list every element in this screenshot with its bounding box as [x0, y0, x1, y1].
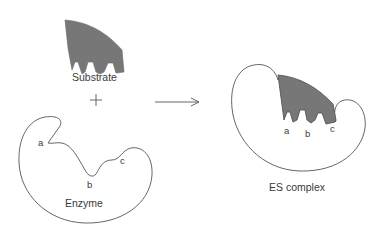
es-substrate-shape [278, 75, 336, 124]
es-site-label-c: c [330, 123, 335, 134]
site-label-b: b [87, 179, 92, 190]
es-site-label-a: a [284, 125, 289, 136]
enzyme-label: Enzyme [65, 197, 103, 209]
site-label-a: a [38, 137, 43, 148]
es-site-label-b: b [305, 128, 310, 139]
es-complex-label: ES complex [269, 181, 325, 193]
site-label-c: c [120, 155, 125, 166]
substrate-shape [65, 20, 124, 74]
diagram-graphics [0, 0, 381, 237]
plus-icon [90, 94, 102, 106]
reaction-arrow-icon [155, 98, 199, 106]
diagram-canvas: Substrate a b c Enzyme a b c ES complex [0, 0, 381, 237]
substrate-label: Substrate [72, 71, 117, 83]
